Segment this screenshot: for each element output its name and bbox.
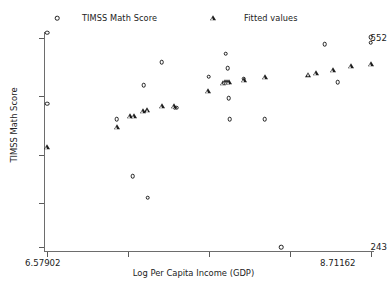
legend-entry-timss-math-score: TIMSS Math Score — [52, 13, 157, 23]
y-axis-title: TIMSS Math Score — [9, 70, 19, 180]
data-point-timss-math-score — [335, 80, 340, 85]
triangle-marker-icon — [208, 13, 218, 23]
data-point-fitted-values — [114, 125, 120, 130]
data-point-timss-math-score — [206, 74, 211, 79]
data-point-timss-math-score — [45, 30, 50, 35]
legend-entry-fitted-values: Fitted values — [208, 13, 298, 23]
data-point-fitted-values — [368, 62, 374, 67]
data-point-timss-math-score — [279, 245, 284, 250]
chart-legend: TIMSS Math Score Fitted values — [0, 0, 387, 30]
x-axis-tick — [47, 252, 48, 257]
data-point-timss-math-score — [368, 35, 373, 40]
x-axis-tick-label-max: 8.71162 — [320, 258, 356, 268]
data-point-fitted-values — [226, 79, 232, 84]
data-point-fitted-values — [205, 89, 211, 94]
plot-data-area — [44, 34, 374, 251]
data-point-timss-math-score — [145, 195, 150, 200]
data-point-timss-math-score — [227, 117, 232, 122]
x-axis-tick-label-min: 6.57902 — [25, 258, 61, 268]
data-point-fitted-values — [171, 103, 177, 108]
data-point-fitted-values — [159, 103, 165, 108]
data-point-fitted-values — [330, 68, 336, 73]
data-point-fitted-values — [305, 72, 311, 77]
x-axis-tick — [209, 252, 210, 257]
legend-label-fitted-values: Fitted values — [244, 13, 298, 23]
data-point-timss-math-score — [322, 42, 327, 47]
circle-marker-icon — [52, 13, 62, 23]
x-axis-tick — [290, 252, 291, 257]
x-axis-tick — [128, 252, 129, 257]
data-point-timss-math-score — [159, 60, 164, 65]
data-point-fitted-values — [131, 113, 137, 118]
data-point-fitted-values — [348, 64, 354, 69]
data-point-fitted-values — [144, 107, 150, 112]
data-point-timss-math-score — [262, 117, 267, 122]
data-point-timss-math-score — [114, 117, 119, 122]
data-point-fitted-values — [313, 70, 319, 75]
data-point-fitted-values — [241, 77, 247, 82]
data-point-timss-math-score — [130, 174, 135, 179]
data-point-timss-math-score — [368, 40, 373, 45]
data-point-timss-math-score — [45, 101, 50, 106]
x-axis-tick — [371, 252, 372, 257]
data-point-timss-math-score — [141, 83, 146, 88]
data-point-fitted-values — [262, 74, 268, 79]
data-point-timss-math-score — [223, 51, 228, 56]
x-axis-title: Log Per Capita Income (GDP) — [0, 268, 387, 278]
data-point-fitted-values — [44, 144, 50, 149]
data-point-timss-math-score — [226, 96, 231, 101]
data-point-timss-math-score — [225, 66, 230, 71]
legend-label-timss-math-score: TIMSS Math Score — [82, 13, 157, 23]
scatter-plot-figure: TIMSS Math Score Fitted values 552 243 6… — [0, 0, 387, 284]
